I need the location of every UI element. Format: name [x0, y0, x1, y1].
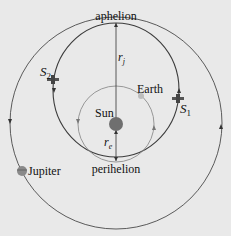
jupiter-orbit-arrow-left-icon — [8, 119, 12, 124]
arrow-perihelion-icon — [114, 157, 118, 161]
r-j-label: rj — [118, 50, 126, 66]
jupiter — [17, 166, 27, 176]
jupiter-label: Jupiter — [28, 164, 61, 178]
aphelion-label: aphelion — [95, 9, 136, 23]
transfer-arrow-s1-icon — [177, 88, 181, 93]
earth-orbit-arrow-left-icon — [76, 119, 80, 124]
r-e-label: re — [104, 135, 113, 151]
arrow-aphelion-icon — [114, 23, 118, 27]
hohmann-transfer-diagram: aphelion perihelion Sun Earth Jupiter rj… — [0, 0, 231, 236]
earth-label: Earth — [137, 82, 163, 96]
perihelion-label: perihelion — [92, 162, 141, 176]
earth-orbit-arrow-right-icon — [152, 125, 156, 130]
sun-label: Sun — [95, 106, 114, 120]
s1-label: S1 — [180, 101, 191, 118]
s2-label: S2 — [40, 64, 51, 81]
